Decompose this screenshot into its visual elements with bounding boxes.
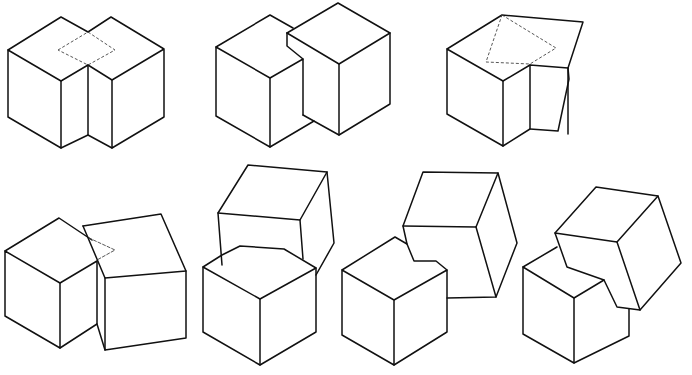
figure-1-cube-pair xyxy=(8,17,164,148)
figure-5-cube-pair xyxy=(203,165,334,365)
figure-2-cube-pair xyxy=(216,3,390,147)
hidden-edge-diamond xyxy=(58,32,115,65)
figure-6-cube-pair xyxy=(342,172,517,365)
figure-7-cube-pair xyxy=(523,187,681,363)
cube-pairs-diagram xyxy=(0,0,692,375)
hidden-edge-quad xyxy=(486,15,556,64)
figure-4-cube-pair xyxy=(5,214,186,350)
figure-3-cube-pair xyxy=(447,15,583,146)
